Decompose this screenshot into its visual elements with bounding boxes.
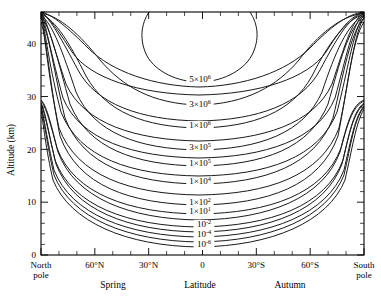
contour-label: 3×106 [189, 98, 211, 109]
x-tick-label: 60°N [85, 260, 105, 270]
season-label-spring: Spring [100, 280, 126, 290]
y-tick-label: 40 [27, 39, 37, 49]
contour-label: 1×106 [189, 119, 211, 130]
y-axis-title: Altitude (km) [6, 124, 17, 176]
contour-label: 3×105 [189, 141, 211, 152]
contour-label: 5×106 [189, 73, 211, 84]
contour-label: 1×101 [189, 205, 211, 216]
contour-label: 1×104 [189, 175, 211, 186]
x-tick-label-line2: pole [356, 270, 372, 280]
x-tick-label: North [31, 260, 52, 270]
contour-plot-figure: 010203040 Northpole60°N30°N030°S60°SSout… [0, 0, 381, 303]
contour-value-labels: 5×1063×1061×1063×1051×1051×1041×1021×101… [186, 73, 214, 250]
contour-line [142, 12, 257, 82]
y-tick-labels: 010203040 [27, 39, 37, 260]
x-tick-label: 30°N [139, 260, 159, 270]
x-tick-label: South [353, 260, 375, 270]
contour-label: 1×105 [189, 157, 211, 168]
plot-svg: 010203040 Northpole60°N30°N030°S60°SSout… [0, 0, 381, 303]
y-tick-label: 0 [32, 250, 37, 260]
x-tick-label: 60°S [301, 260, 319, 270]
contour-line [41, 14, 364, 128]
x-tick-label: 0 [200, 260, 205, 270]
y-tick-label: 30 [27, 92, 37, 102]
x-tick-label-line2: pole [33, 270, 49, 280]
contour-line [41, 13, 364, 105]
y-tick-label: 20 [27, 145, 37, 155]
x-axis-title: Latitude [184, 280, 216, 290]
y-tick-label: 10 [27, 197, 37, 207]
season-label-autumn: Autumn [274, 280, 305, 290]
x-tick-labels: Northpole60°N30°N030°S60°SSouthpole [31, 260, 375, 280]
x-tick-label: 30°S [248, 260, 266, 270]
